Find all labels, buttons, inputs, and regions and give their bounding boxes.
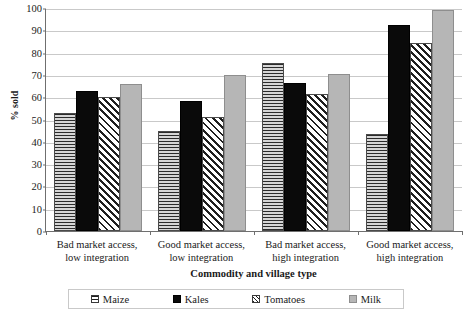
bar-milk [328, 74, 350, 231]
x-axis-label-line: low integration [149, 251, 253, 264]
x-tick-mark [150, 231, 151, 235]
bar-group [358, 9, 462, 231]
x-axis-label-line: high integration [358, 251, 462, 264]
bar-kales [180, 101, 202, 231]
x-axis-label-line: Bad market access, [45, 238, 149, 251]
y-tick-label: 50 [32, 115, 43, 126]
x-axis-category-labels: Bad market access,low integrationGood ma… [45, 238, 462, 264]
bar-tomatoes [306, 94, 328, 231]
x-tick-mark [358, 231, 359, 235]
y-tick-label: 80 [32, 48, 43, 59]
chart-legend: MaizeKalesTomatoesMilk [68, 289, 404, 309]
legend-label: Tomatoes [264, 294, 305, 305]
y-tick-label: 10 [32, 204, 43, 215]
legend-swatch-icon [91, 295, 99, 303]
bar-milk [432, 10, 454, 231]
bar-kales [388, 25, 410, 231]
x-axis-label-line: Bad market access, [254, 238, 358, 251]
x-axis-label-line: low integration [45, 251, 149, 264]
legend-item-maize: Maize [91, 294, 129, 305]
plot-area: 0102030405060708090100 [45, 9, 462, 232]
bar-maize [54, 113, 76, 231]
legend-swatch-icon [252, 295, 260, 303]
x-axis-label: Good market access,high integration [358, 238, 462, 264]
bar-tomatoes [410, 43, 432, 231]
legend-label: Milk [361, 294, 381, 305]
y-tick-label: 60 [32, 93, 43, 104]
legend-label: Kales [185, 294, 209, 305]
y-tick-label: 30 [32, 160, 43, 171]
bar-maize [366, 134, 388, 231]
y-tick-label: 70 [32, 71, 43, 82]
x-axis-title: Commodity and village type [45, 268, 462, 279]
legend-swatch-icon [173, 295, 181, 303]
x-axis-label: Bad market access,high integration [254, 238, 358, 264]
x-tick-mark [462, 231, 463, 235]
bar-kales [284, 83, 306, 231]
x-axis-label-line: Good market access, [149, 238, 253, 251]
bar-kales [76, 91, 98, 231]
y-tick-label: 0 [37, 227, 42, 238]
y-tick-label: 90 [32, 26, 43, 37]
bar-groups [46, 9, 462, 231]
bar-maize [262, 63, 284, 231]
bar-group [254, 9, 358, 231]
bar-cluster [46, 9, 150, 231]
legend-item-milk: Milk [349, 294, 381, 305]
bar-cluster [254, 9, 358, 231]
bar-chart: % sold 0102030405060708090100 Bad market… [0, 0, 472, 319]
legend-swatch-icon [349, 295, 357, 303]
y-tick-label: 40 [32, 138, 43, 149]
x-tick-mark [254, 231, 255, 235]
bar-group [150, 9, 254, 231]
y-axis-title: % sold [9, 76, 20, 136]
bar-tomatoes [98, 97, 120, 231]
y-tick-label: 100 [26, 4, 42, 15]
x-axis-label-line: high integration [254, 251, 358, 264]
legend-item-kales: Kales [173, 294, 209, 305]
x-tick-mark [46, 231, 47, 235]
bar-cluster [358, 9, 462, 231]
bar-milk [224, 75, 246, 231]
legend-label: Maize [103, 294, 129, 305]
x-axis-label: Bad market access,low integration [45, 238, 149, 264]
x-axis-label-line: Good market access, [358, 238, 462, 251]
y-tick-label: 20 [32, 182, 43, 193]
legend-item-tomatoes: Tomatoes [252, 294, 305, 305]
bar-maize [158, 131, 180, 231]
bar-milk [120, 84, 142, 231]
x-axis-label: Good market access,low integration [149, 238, 253, 264]
bar-cluster [150, 9, 254, 231]
bar-group [46, 9, 150, 231]
bar-tomatoes [202, 117, 224, 231]
